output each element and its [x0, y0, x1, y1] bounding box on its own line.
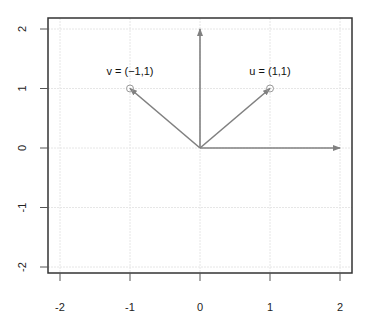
y-tick-label: 0: [16, 145, 28, 151]
u-vector: [200, 89, 270, 149]
y-tick-label: 1: [16, 85, 28, 91]
y-tick-label: 2: [16, 26, 28, 32]
vector-plot: v = (−1,1)u = (1,1) -2-1012 -2-1012: [0, 0, 368, 328]
x-tick-label: -2: [55, 301, 65, 313]
y-axis: -2-1012: [16, 26, 48, 272]
x-tick-label: 0: [197, 301, 203, 313]
point-label-v: v = (−1,1): [106, 65, 153, 77]
x-tick-label: 2: [337, 301, 343, 313]
y-tick-label: -1: [16, 203, 28, 213]
x-tick-label: -1: [125, 301, 135, 313]
v-vector: [130, 89, 200, 149]
point-labels: v = (−1,1)u = (1,1): [106, 65, 290, 77]
x-tick-label: 1: [267, 301, 273, 313]
point-label-u: u = (1,1): [249, 65, 290, 77]
y-tick-label: -2: [16, 262, 28, 272]
x-axis: -2-1012: [55, 273, 343, 313]
